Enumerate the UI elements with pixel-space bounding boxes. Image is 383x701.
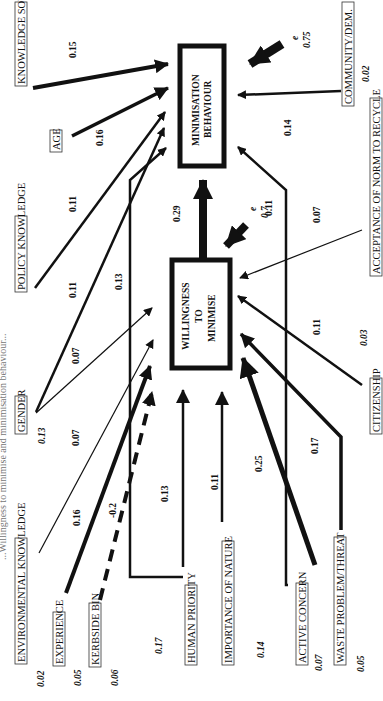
label-kerbside-bin: KERBSIDE BIN [89,593,101,667]
svg-text:0.11: 0.11 [312,319,322,335]
behaviour-error: e 0.75 [250,31,312,64]
svg-text:0.16: 0.16 [95,129,105,146]
svg-text:IMPORTANCE OF NATURE: IMPORTANCE OF NATURE [223,536,234,663]
path-diagram: ...Willingness to minimise and minimisat… [0,0,383,701]
path-citizenship [238,296,362,385]
label-experience: EXPERIENCE [53,600,65,666]
svg-text:0.75: 0.75 [302,31,312,48]
svg-text:COMMUNITY/DEM.: COMMUNITY/DEM. [343,9,354,104]
path-community [238,91,341,95]
svg-text:e: e [248,206,258,211]
path-gender-behaviour [36,128,164,412]
svg-text:AGE: AGE [51,128,62,150]
svg-text:BEHAVIOUR: BEHAVIOUR [203,80,213,138]
svg-text:0.07: 0.07 [71,347,81,364]
label-citizenship: CITIZENSHIP [370,368,382,434]
label-waste-problem: WASTE PROBLEM/THREAT [334,532,346,665]
svg-text:EXPERIENCE: EXPERIENCE [54,600,65,664]
path-env-knowledge [39,340,153,553]
svg-text:ACCEPTANCE OF NORM TO RECYCLE: ACCEPTANCE OF NORM TO RECYCLE [371,89,382,274]
svg-text:KERBSIDE BIN: KERBSIDE BIN [90,593,101,665]
svg-text:0.11: 0.11 [210,474,220,490]
willingness-box: WILLINGNESS TO MINIMISE [172,260,230,368]
label-policy-knowledge: POLICY KNOWLEDGE [15,183,27,292]
r2-kerbside: 0.06 [110,669,120,686]
svg-text:0.13: 0.13 [114,273,124,290]
label-age: AGE [50,128,62,152]
svg-text:WASTE PROBLEM/THREAT: WASTE PROBLEM/THREAT [335,532,346,663]
svg-text:CITIZENSHIP: CITIZENSHIP [371,368,382,432]
svg-text:0.14: 0.14 [283,119,293,136]
svg-text:-0.2: -0.2 [108,503,118,518]
svg-text:MINIMISE: MINIMISE [207,294,217,342]
figure-title: ...Willingness to minimise and minimisat… [0,333,8,560]
path-acceptance [240,230,362,278]
svg-text:e: e [290,35,300,40]
svg-text:ENVIRONMENTAL KNOWLEDGE: ENVIRONMENTAL KNOWLEDGE [16,503,27,662]
label-importance-of-nature: IMPORTANCE OF NATURE [222,536,234,665]
svg-text:GENDER: GENDER [16,389,27,432]
r2-experience: 0.05 [73,669,83,686]
behaviour-box: MINIMISATION BEHAVIOUR [180,46,224,166]
path-knowledge-sources [33,64,168,88]
label-active-concern: ACTIVE CONCERN [296,571,308,665]
r2-community: 0.02 [361,65,371,82]
r2-waste: 0.05 [356,655,366,672]
label-knowledge-sources: KNOWLEDGE SOURCES [15,0,27,86]
r2-gender: 0.13 [37,427,47,444]
svg-text:0.29: 0.29 [172,205,182,222]
svg-text:0.11: 0.11 [68,196,78,212]
label-environmental-knowledge: ENVIRONMENTAL KNOWLEDGE [15,503,27,664]
r2-human-priority: 0.17 [154,636,164,654]
svg-text:HUMAN PRIORITY: HUMAN PRIORITY [186,572,197,663]
r2-active-concern: 0.07 [314,653,324,671]
svg-text:0.11: 0.11 [68,282,78,298]
label-gender: GENDER [15,389,27,434]
svg-text:0.13: 0.13 [160,485,170,502]
svg-text:POLICY KNOWLEDGE: POLICY KNOWLEDGE [16,183,27,290]
svg-text:0.11: 0.11 [264,200,274,216]
svg-text:0.07: 0.07 [312,206,322,223]
r2-nature: 0.14 [256,641,266,658]
r2-env-knowledge: 0.02 [36,670,46,687]
svg-text:0.07: 0.07 [71,429,81,446]
svg-text:0.25: 0.25 [254,455,264,472]
svg-text:0.17: 0.17 [310,437,320,454]
r2-citizenship: 0.03 [359,329,369,346]
label-acceptance-norm: ACCEPTANCE OF NORM TO RECYCLE [370,89,382,276]
svg-text:0.16: 0.16 [72,509,82,526]
svg-text:MINIMISATION: MINIMISATION [191,74,201,146]
svg-text:0.15: 0.15 [68,41,78,58]
svg-text:WILLINGNESS: WILLINGNESS [181,282,191,350]
label-human-priority: HUMAN PRIORITY [185,572,197,665]
svg-text:TO: TO [194,309,204,323]
svg-text:ACTIVE CONCERN: ACTIVE CONCERN [297,571,308,663]
svg-text:KNOWLEDGE SOURCES: KNOWLEDGE SOURCES [16,0,27,84]
path-gender-willingness [36,308,152,413]
label-community: COMMUNITY/DEM. [342,2,354,106]
